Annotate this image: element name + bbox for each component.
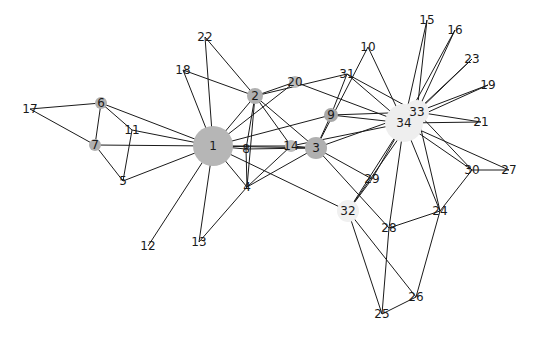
- node-label-25: 25: [374, 307, 389, 321]
- node-label-9: 9: [327, 108, 335, 122]
- node-label-5: 5: [119, 174, 127, 188]
- node-label-32: 32: [340, 204, 355, 218]
- node-label-7: 7: [91, 138, 99, 152]
- edge-24-26: [416, 211, 440, 297]
- node-label-2: 2: [251, 89, 259, 103]
- edge-7-17: [30, 109, 95, 145]
- node-label-20: 20: [287, 75, 302, 89]
- edge-3-10: [316, 47, 368, 148]
- edge-25-28: [382, 228, 389, 314]
- node-label-34: 34: [396, 116, 411, 130]
- node-label-29: 29: [364, 172, 379, 186]
- node-label-22: 22: [197, 30, 212, 44]
- node-label-28: 28: [381, 221, 396, 235]
- node-label-19: 19: [480, 78, 495, 92]
- edge-15-33: [417, 20, 427, 112]
- node-label-3: 3: [312, 141, 320, 155]
- node-label-11: 11: [124, 123, 139, 137]
- edge-6-17: [30, 103, 101, 109]
- node-label-27: 27: [501, 163, 516, 177]
- node-label-15: 15: [419, 13, 434, 27]
- node-label-33: 33: [409, 105, 424, 119]
- node-label-16: 16: [447, 23, 462, 37]
- network-graph: 1234567891011121314151617181920212223242…: [0, 0, 538, 341]
- node-label-13: 13: [191, 235, 206, 249]
- node-label-30: 30: [464, 163, 479, 177]
- label-layer: 1234567891011121314151617181920212223242…: [22, 13, 516, 321]
- node-label-31: 31: [339, 67, 354, 81]
- node-label-26: 26: [408, 290, 423, 304]
- node-label-17: 17: [22, 102, 37, 116]
- node-label-21: 21: [473, 115, 488, 129]
- edge-layer: [30, 20, 509, 314]
- edge-25-32: [348, 211, 382, 314]
- node-label-8: 8: [242, 142, 250, 156]
- node-label-18: 18: [175, 63, 190, 77]
- node-label-4: 4: [243, 180, 251, 194]
- node-label-23: 23: [464, 52, 479, 66]
- node-label-1: 1: [209, 139, 217, 153]
- node-label-14: 14: [283, 139, 298, 153]
- node-label-24: 24: [432, 204, 447, 218]
- node-label-10: 10: [360, 40, 375, 54]
- node-label-6: 6: [97, 96, 105, 110]
- node-label-12: 12: [140, 239, 155, 253]
